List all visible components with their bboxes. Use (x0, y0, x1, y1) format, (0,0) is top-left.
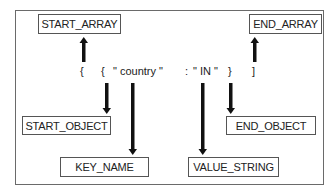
arrow-up-icon (80, 37, 89, 62)
arrow-up-icon (251, 37, 260, 62)
arrow-down-icon (227, 83, 236, 114)
arrow-down-icon (129, 83, 138, 155)
arrow-down-icon (103, 83, 112, 114)
arrows-layer (0, 0, 336, 194)
arrow-down-icon (199, 83, 208, 155)
